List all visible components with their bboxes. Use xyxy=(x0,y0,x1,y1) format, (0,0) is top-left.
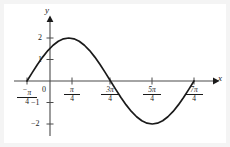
y-tick-label-2: 2 xyxy=(28,34,42,42)
y-tick-value-neg-2: 2 xyxy=(36,119,40,128)
x-tick-denominator: 4 xyxy=(64,95,80,103)
pi-symbol: π xyxy=(27,88,31,97)
origin-label: 0 xyxy=(42,86,46,94)
y-tick-label-1: 1 xyxy=(28,56,42,64)
sine-graph-figure: y x 2 1 −1 −2 0 −π 4 π 4 3π 4 5π 4 7π 4 xyxy=(0,0,230,147)
x-tick-denominator: 4 xyxy=(17,98,37,106)
x-tick-denominator: 4 xyxy=(185,95,203,103)
x-tick-label-7pi-4: 7π 4 xyxy=(185,86,203,103)
y-tick-label-neg-2: −2 xyxy=(31,120,40,128)
x-tick-denominator: 4 xyxy=(143,95,161,103)
x-tick-label-3pi-4: 3π 4 xyxy=(101,86,119,103)
x-tick-numerator: −π xyxy=(17,86,37,98)
x-tick-label-neg-pi-4: −π 4 xyxy=(17,86,37,106)
y-axis-label: y xyxy=(45,6,49,15)
x-tick-label-pi-4: π 4 xyxy=(64,86,80,103)
x-tick-denominator: 4 xyxy=(101,95,119,103)
x-axis-label: x xyxy=(218,74,222,83)
x-tick-label-5pi-4: 5π 4 xyxy=(143,86,161,103)
